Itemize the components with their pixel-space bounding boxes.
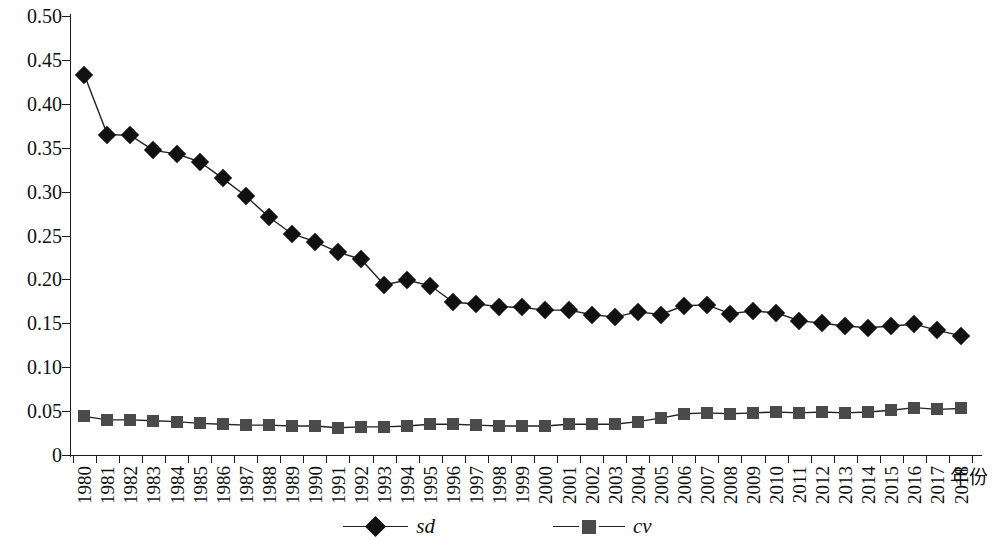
legend-entry-cv: cv bbox=[553, 514, 652, 539]
x-tick-label: 1981 bbox=[98, 466, 117, 504]
data-point-cv bbox=[701, 407, 713, 419]
data-point-cv bbox=[401, 420, 413, 432]
x-tick-label: 1990 bbox=[306, 466, 325, 504]
x-tick-label: 1988 bbox=[260, 466, 279, 504]
data-point-cv bbox=[816, 406, 828, 418]
x-tick-label: 2004 bbox=[629, 466, 648, 504]
data-point-cv bbox=[447, 418, 459, 430]
data-point-cv bbox=[955, 402, 967, 414]
x-tick-label: 2014 bbox=[859, 466, 878, 504]
x-tick-mark bbox=[903, 455, 904, 463]
y-tick-mark bbox=[62, 367, 70, 368]
x-tick-mark bbox=[349, 455, 350, 463]
x-tick-label: 1984 bbox=[168, 466, 187, 504]
x-tick-mark bbox=[718, 455, 719, 463]
x-axis-title: 年份 bbox=[950, 462, 988, 489]
data-point-cv bbox=[563, 418, 575, 430]
series-lines bbox=[70, 16, 982, 455]
data-point-cv bbox=[332, 422, 344, 434]
y-tick-mark bbox=[62, 192, 70, 193]
x-tick-mark bbox=[373, 455, 374, 463]
x-tick-mark bbox=[442, 455, 443, 463]
x-tick-mark bbox=[857, 455, 858, 463]
data-point-cv bbox=[309, 420, 321, 432]
plot-area bbox=[70, 16, 982, 455]
x-tick-mark bbox=[142, 455, 143, 463]
y-tick-label: 0.05 bbox=[27, 400, 62, 423]
data-point-cv bbox=[124, 414, 136, 426]
data-point-cv bbox=[839, 407, 851, 419]
y-tick-mark bbox=[62, 411, 70, 412]
data-point-cv bbox=[724, 408, 736, 420]
x-tick-label: 1998 bbox=[490, 466, 509, 504]
y-tick-mark bbox=[62, 279, 70, 280]
y-tick-mark bbox=[62, 148, 70, 149]
y-tick-label: 0.15 bbox=[27, 312, 62, 335]
x-tick-mark bbox=[280, 455, 281, 463]
x-tick-label: 2005 bbox=[652, 466, 671, 504]
data-point-cv bbox=[931, 403, 943, 415]
y-tick-mark bbox=[62, 60, 70, 61]
y-tick-label: 0.25 bbox=[27, 224, 62, 247]
x-tick-label: 1994 bbox=[398, 466, 417, 504]
x-tick-label: 2003 bbox=[606, 466, 625, 504]
data-point-cv bbox=[862, 406, 874, 418]
y-tick-label: 0.20 bbox=[27, 268, 62, 291]
x-tick-label: 1999 bbox=[513, 466, 532, 504]
data-point-cv bbox=[539, 420, 551, 432]
x-tick-label: 1983 bbox=[144, 466, 163, 504]
x-tick-label: 2011 bbox=[790, 466, 809, 503]
x-tick-label: 2008 bbox=[721, 466, 740, 504]
x-tick-mark bbox=[603, 455, 604, 463]
x-tick-mark bbox=[926, 455, 927, 463]
x-tick-mark bbox=[465, 455, 466, 463]
data-point-cv bbox=[885, 404, 897, 416]
data-point-cv bbox=[586, 418, 598, 430]
x-axis-line bbox=[70, 455, 982, 456]
legend-label-sd: sd bbox=[416, 514, 435, 539]
x-tick-label: 2002 bbox=[583, 466, 602, 504]
x-tick-mark bbox=[811, 455, 812, 463]
y-tick-mark bbox=[62, 16, 70, 17]
data-point-cv bbox=[147, 415, 159, 427]
legend-entry-sd: sd bbox=[343, 514, 435, 539]
x-tick-label: 1980 bbox=[75, 466, 94, 504]
data-point-cv bbox=[655, 412, 667, 424]
y-tick-mark bbox=[62, 236, 70, 237]
data-point-cv bbox=[424, 418, 436, 430]
x-tick-label: 1997 bbox=[467, 466, 486, 504]
data-point-cv bbox=[171, 416, 183, 428]
x-tick-mark bbox=[880, 455, 881, 463]
x-tick-label: 2015 bbox=[882, 466, 901, 504]
y-tick-label: 0.10 bbox=[27, 356, 62, 379]
data-point-cv bbox=[355, 421, 367, 433]
x-tick-mark bbox=[511, 455, 512, 463]
data-point-cv bbox=[240, 419, 252, 431]
x-tick-label: 1986 bbox=[214, 466, 233, 504]
x-tick-mark bbox=[765, 455, 766, 463]
x-tick-mark bbox=[234, 455, 235, 463]
x-tick-label: 2012 bbox=[813, 466, 832, 504]
x-tick-label: 2007 bbox=[698, 466, 717, 504]
y-tick-label: 0.45 bbox=[27, 48, 62, 71]
x-tick-mark bbox=[211, 455, 212, 463]
data-point-cv bbox=[263, 419, 275, 431]
x-tick-mark bbox=[96, 455, 97, 463]
data-point-cv bbox=[101, 414, 113, 426]
legend-line-cv-right bbox=[599, 526, 625, 528]
x-tick-label: 1991 bbox=[329, 466, 348, 504]
chart-figure: 00.050.100.150.200.250.300.350.400.450.5… bbox=[0, 0, 995, 541]
x-tick-label: 1995 bbox=[421, 466, 440, 504]
square-marker-icon bbox=[582, 520, 596, 534]
data-point-cv bbox=[286, 420, 298, 432]
legend-label-cv: cv bbox=[633, 514, 652, 539]
x-tick-label: 2010 bbox=[767, 466, 786, 504]
y-tick-label: 0.50 bbox=[27, 5, 62, 28]
x-tick-mark bbox=[73, 455, 74, 463]
x-tick-label: 2009 bbox=[744, 466, 763, 504]
y-tick-mark bbox=[62, 104, 70, 105]
data-point-cv bbox=[678, 408, 690, 420]
x-tick-label: 2017 bbox=[928, 466, 947, 504]
data-point-cv bbox=[78, 410, 90, 422]
x-tick-label: 2001 bbox=[560, 466, 579, 504]
